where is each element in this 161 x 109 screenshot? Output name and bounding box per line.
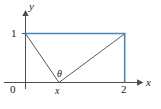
diagram-canvas <box>0 0 161 109</box>
triangle-shape <box>26 34 126 83</box>
x-foot-label: x <box>55 86 59 96</box>
x-axis-label: x <box>146 77 151 88</box>
y-axis <box>22 10 28 89</box>
theta-angle-label: θ <box>57 69 62 79</box>
origin-label: 0 <box>10 84 16 95</box>
x-axis-arrowhead-icon <box>137 79 144 85</box>
y-axis-label: y <box>29 1 34 12</box>
triangle-left-side <box>26 34 60 83</box>
y-axis-arrowhead-icon <box>22 10 28 16</box>
x-tick-label-two: 2 <box>121 84 127 95</box>
geometry-figure: y x 1 0 2 x θ <box>0 0 161 109</box>
y-tick-label-one: 1 <box>11 28 17 39</box>
triangle-right-side <box>59 34 125 83</box>
rectangle-shape <box>25 33 126 83</box>
